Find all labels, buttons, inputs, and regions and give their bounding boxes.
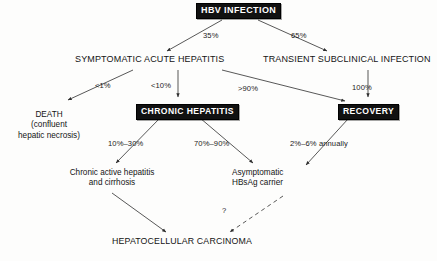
edge-label-symptomatic-share: 35% [203,31,219,40]
node-chronic-hepatitis: CHRONIC HEPATITIS [136,104,239,120]
edge-label-carcinoma-annual-rate: 2%–6% annually [290,139,348,148]
node-death-line-1: DEATH [2,110,96,120]
node-symptomatic-acute-hepatitis: SYMPTOMATIC ACUTE HEPATITIS [75,54,224,65]
node-cirrhosis-line-2: and cirrhosis [42,178,182,188]
node-death: DEATH (confluent hepatic necrosis) [2,110,96,141]
node-cirrhosis-line-1: Chronic active hepatitis [42,168,182,178]
node-chronic-active-hepatitis-cirrhosis: Chronic active hepatitis and cirrhosis [42,168,182,189]
edge-label-recovery-from-subclinical: 100% [352,83,372,92]
node-hepatocellular-carcinoma: HEPATOCELLULAR CARCINOMA [112,236,252,247]
edge-label-carrier-rate: 70%–90% [194,139,229,148]
node-death-line-2: (confluent [2,120,96,130]
edge-carrier-to-carcinoma-uncertain [230,196,283,232]
flowchart-canvas: HBV INFECTION SYMPTOMATIC ACUTE HEPATITI… [0,0,437,261]
edge-label-chronic-from-symptomatic: <10% [151,81,171,90]
edge-label-subclinical-share: 65% [291,31,307,40]
node-carrier-line-2: HBsAg carrier [232,178,340,188]
edge-cirrhosis-to-carcinoma [112,193,166,232]
node-recovery: RECOVERY [338,104,399,120]
node-transient-subclinical-infection: TRANSIENT SUBCLINICAL INFECTION [263,54,431,65]
node-death-line-3: hepatic necrosis) [2,131,96,141]
node-hbv-infection: HBV INFECTION [196,3,281,19]
node-carrier-line-1: Asymptomatic [232,168,340,178]
edge-label-death-rate: <1% [95,81,111,90]
node-asymptomatic-hbsag-carrier: Asymptomatic HBsAg carrier [232,168,340,189]
edge-label-recovery-from-symptomatic: >90% [238,84,258,93]
edge-label-uncertain: ? [222,206,226,215]
edge-label-cirrhosis-rate: 10%–30% [108,139,143,148]
